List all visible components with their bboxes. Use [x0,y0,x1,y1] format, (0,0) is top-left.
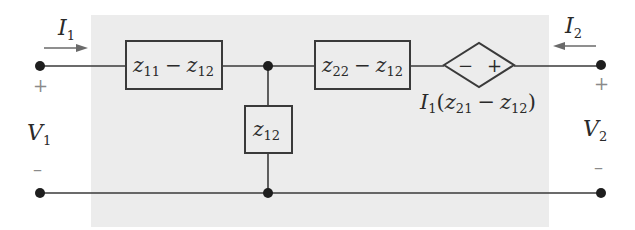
terminal-port1-bottom [35,188,45,198]
source-plus-sign: + [487,55,502,76]
label-i2: I2 [564,13,582,41]
label-v1: V1 [27,120,51,148]
port1-minus-sign: – [33,159,42,180]
source-minus-sign: − [458,55,473,76]
arrow-i1-icon [44,44,88,52]
circuit-diagram: I1 I2 + – + – V1 V2 z11−z12 z12 z22−z12 … [0,0,635,230]
port2-plus-sign: + [594,73,609,94]
terminal-port2-bottom [596,188,606,198]
arrow-i2-icon [553,42,596,50]
junction-node-bottom [263,188,273,198]
junction-node-top [263,61,273,71]
port1-plus-sign: + [33,75,48,96]
terminal-port2-top [596,60,606,70]
terminal-port1-top [35,61,45,71]
label-i1: I1 [57,15,75,43]
label-v2: V2 [583,116,607,144]
port2-minus-sign: – [594,157,603,178]
